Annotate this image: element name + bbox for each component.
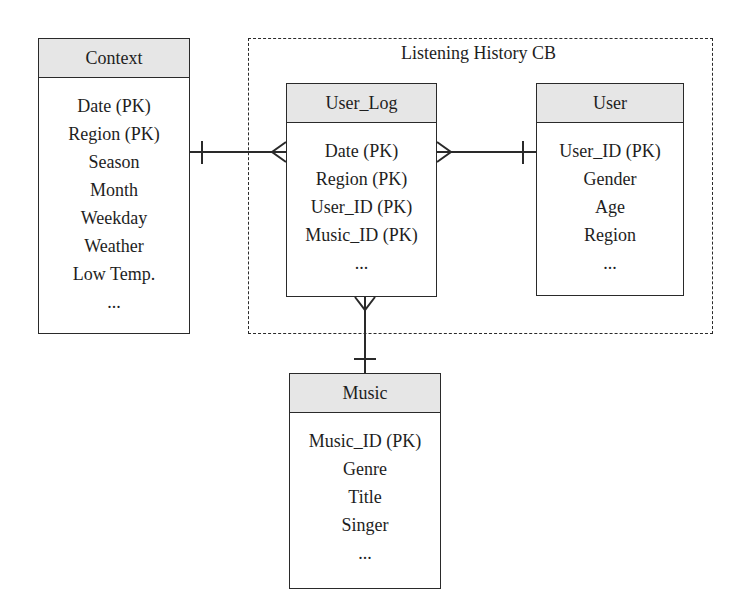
entity-title: User — [537, 84, 683, 123]
attribute: Age — [537, 193, 683, 221]
attribute: Genre — [290, 455, 440, 483]
attribute: Gender — [537, 165, 683, 193]
attribute-list: Date (PK) Region (PK) Season Month Weekd… — [39, 78, 189, 316]
attribute: Singer — [290, 511, 440, 539]
attribute: Weather — [39, 232, 189, 260]
attribute-list: Date (PK) Region (PK) User_ID (PK) Music… — [287, 123, 436, 277]
attribute: Music_ID (PK) — [287, 221, 436, 249]
attribute-ellipsis: ... — [287, 249, 436, 277]
attribute: User_ID (PK) — [537, 137, 683, 165]
entity-context[interactable]: Context Date (PK) Region (PK) Season Mon… — [38, 38, 190, 334]
attribute: Music_ID (PK) — [290, 427, 440, 455]
attribute: Date (PK) — [39, 92, 189, 120]
attribute: Month — [39, 176, 189, 204]
er-diagram: Listening History CB Context Date (PK) R… — [0, 0, 750, 613]
entity-user-log[interactable]: User_Log Date (PK) Region (PK) User_ID (… — [286, 83, 437, 297]
entity-title: Music — [290, 374, 440, 413]
attribute-ellipsis: ... — [290, 539, 440, 567]
attribute: Region (PK) — [287, 165, 436, 193]
attribute: Region — [537, 221, 683, 249]
attribute: Date (PK) — [287, 137, 436, 165]
attribute: Region (PK) — [39, 120, 189, 148]
entity-title: Context — [39, 39, 189, 78]
entity-title: User_Log — [287, 84, 436, 123]
attribute: User_ID (PK) — [287, 193, 436, 221]
attribute-list: Music_ID (PK) Genre Title Singer ... — [290, 413, 440, 567]
attribute-list: User_ID (PK) Gender Age Region ... — [537, 123, 683, 277]
group-label: Listening History CB — [401, 43, 556, 64]
attribute-ellipsis: ... — [537, 249, 683, 277]
attribute: Low Temp. — [39, 260, 189, 288]
attribute: Season — [39, 148, 189, 176]
entity-music[interactable]: Music Music_ID (PK) Genre Title Singer .… — [289, 373, 441, 589]
attribute-ellipsis: ... — [39, 288, 189, 316]
attribute: Title — [290, 483, 440, 511]
attribute: Weekday — [39, 204, 189, 232]
entity-user[interactable]: User User_ID (PK) Gender Age Region ... — [536, 83, 684, 296]
